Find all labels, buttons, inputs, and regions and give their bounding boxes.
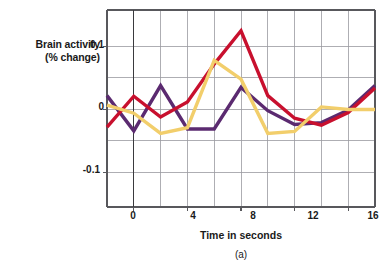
plot-frame <box>103 10 375 211</box>
plot-canvas <box>0 0 386 269</box>
brain-activity-figure: Brain activity (% change) 0.1 0 -0.1 0 4… <box>0 0 386 269</box>
